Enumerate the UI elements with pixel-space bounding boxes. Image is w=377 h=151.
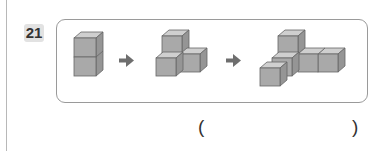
arrow-right-icon <box>119 54 134 67</box>
figure-two-cube-stack <box>72 30 106 78</box>
answer-open-paren: ( <box>198 116 204 138</box>
figure-three-cube-l <box>152 28 210 86</box>
question-number-badge: 21 <box>24 24 44 42</box>
answer-blank[interactable] <box>212 116 352 138</box>
margin-rule <box>6 0 7 151</box>
figure-five-cube-t <box>258 28 354 94</box>
answer-close-paren: ) <box>352 116 358 138</box>
arrow-right-icon <box>226 54 241 67</box>
